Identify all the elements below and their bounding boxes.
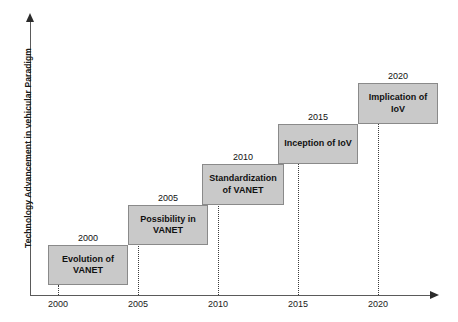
tick-dotted-line-2010 bbox=[218, 196, 219, 295]
step-box-label-2000: Evolution of VANET bbox=[53, 254, 123, 277]
step-box-label-2005: Possibility in VANET bbox=[133, 214, 203, 237]
step-box-label-2015: Inception of IoV bbox=[284, 138, 352, 149]
tick-dotted-line-2020 bbox=[378, 115, 379, 295]
x-tick-label-2010: 2010 bbox=[196, 299, 240, 309]
step-year-2010: 2010 bbox=[202, 152, 284, 162]
y-axis-title: Technology Advancement in vehicular Para… bbox=[23, 23, 33, 273]
step-box-2010: Standardization of VANET bbox=[202, 164, 284, 205]
step-box-label-2010: Standardization of VANET bbox=[207, 173, 279, 196]
step-year-2000: 2000 bbox=[48, 233, 128, 243]
x-axis-arrow-icon bbox=[430, 291, 439, 299]
x-tick-label-2000: 2000 bbox=[36, 299, 80, 309]
x-tick-label-2015: 2015 bbox=[276, 299, 320, 309]
step-box-2000: Evolution of VANET bbox=[48, 245, 128, 285]
x-axis-line bbox=[30, 295, 432, 296]
step-year-2005: 2005 bbox=[128, 193, 208, 203]
step-box-2015: Inception of IoV bbox=[278, 124, 358, 164]
x-tick-label-2020: 2020 bbox=[356, 299, 400, 309]
step-box-2020: Implication of IoV bbox=[358, 83, 438, 124]
tick-dotted-line-2000 bbox=[58, 285, 59, 295]
step-year-2015: 2015 bbox=[278, 112, 358, 122]
step-box-2005: Possibility in VANET bbox=[128, 205, 208, 245]
y-axis-arrow-icon bbox=[26, 13, 34, 22]
timeline-staircase-chart: Technology Advancement in vehicular Para… bbox=[0, 0, 458, 322]
x-tick-label-2005: 2005 bbox=[116, 299, 160, 309]
step-box-label-2020: Implication of IoV bbox=[363, 92, 433, 115]
tick-dotted-line-2015 bbox=[298, 155, 299, 295]
step-year-2020: 2020 bbox=[358, 71, 438, 81]
